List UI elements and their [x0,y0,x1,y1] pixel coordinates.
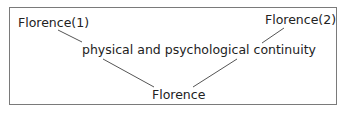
edge-continuity-to-florence-left [103,59,154,87]
edge-continuity-to-florence-right [193,59,237,87]
node-florence-2: Florence(2) [265,13,336,27]
node-florence: Florence [152,88,205,102]
edge-florence2-to-continuity [262,28,284,43]
edge-florence1-to-continuity [58,30,82,42]
node-florence-1: Florence(1) [18,16,89,30]
node-continuity: physical and psychological continuity [82,43,316,57]
